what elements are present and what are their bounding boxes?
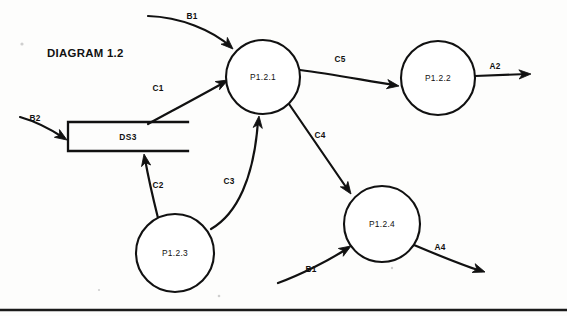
flow-label: C3: [223, 176, 234, 186]
flow-label: B1: [305, 264, 316, 274]
diagram-canvas: DS3 B1B2C1C2C3C4C5A2B1A4 P1.2.1P1.2.2P1.…: [0, 0, 567, 316]
process-label: P1.2.3: [162, 248, 188, 258]
flow-label: B1: [186, 11, 197, 21]
flow-arrowhead: [472, 264, 486, 277]
flow-c4-f-c4: C4: [289, 104, 355, 197]
flow-label: C1: [152, 83, 163, 93]
process-label: P1.2.1: [250, 72, 276, 82]
flow-label: C4: [314, 130, 325, 140]
process-p1-2-2: P1.2.2: [401, 41, 475, 115]
flow-label: C2: [152, 180, 163, 190]
page-title: DIAGRAM 1.2: [47, 47, 124, 59]
process-label: P1.2.4: [369, 219, 395, 229]
flow-path: [300, 70, 395, 85]
flow-label: A2: [489, 61, 500, 71]
data-store-ds3: DS3: [68, 122, 188, 151]
scan-speck: [98, 289, 100, 291]
flow-label: A4: [434, 242, 445, 252]
processes-layer: P1.2.1P1.2.2P1.2.3P1.2.4: [136, 40, 475, 292]
flow-c5-f-c5: C5: [300, 54, 400, 91]
flow-c3-f-c3: C3: [211, 116, 264, 229]
scan-speck: [218, 295, 221, 298]
flow-b1-f-b1-bottom: B1: [278, 242, 353, 283]
flow-b2-f-b2: B2: [20, 113, 70, 144]
scan-speck: [20, 42, 23, 45]
flow-path: [211, 121, 258, 229]
flow-c2-f-c2: C2: [139, 153, 163, 218]
flow-b1-f-b1-top: B1: [148, 11, 236, 52]
data-flow-diagram: DS3 B1B2C1C2C3C4C5A2B1A4 P1.2.1P1.2.2P1.…: [0, 0, 567, 316]
process-p1-2-3: P1.2.3: [136, 214, 214, 292]
data-stores-layer: DS3: [68, 122, 188, 151]
data-store-label: DS3: [119, 132, 137, 142]
flow-c1-f-c1: C1: [148, 76, 230, 124]
flow-path: [289, 104, 348, 190]
process-p1-2-4: P1.2.4: [344, 186, 420, 262]
flow-label: B2: [29, 113, 40, 123]
scan-speck: [391, 267, 393, 269]
flow-path: [20, 117, 64, 138]
flow-path: [414, 245, 481, 271]
process-p1-2-1: P1.2.1: [226, 40, 300, 114]
flow-label: C5: [334, 54, 345, 64]
process-label: P1.2.2: [425, 73, 451, 83]
flow-a4-f-a4: A4: [414, 242, 486, 276]
flow-a2-f-a2: A2: [475, 61, 531, 79]
flow-path: [475, 74, 527, 76]
